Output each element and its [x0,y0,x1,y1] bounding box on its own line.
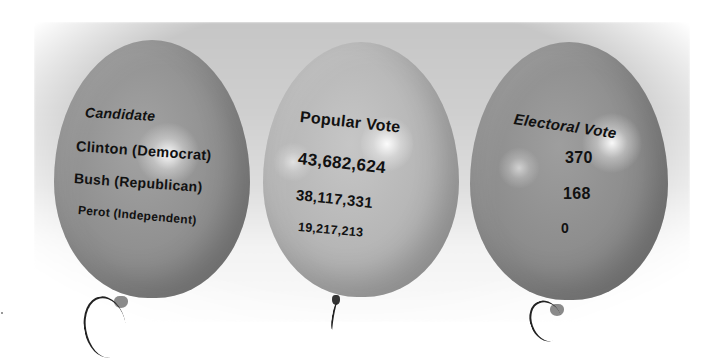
electoral-vote-bush: 168 [563,185,591,203]
balloon-highlight [498,147,540,189]
speck [1,312,3,314]
electoral-vote-perot: 0 [561,220,569,236]
electoral-vote-clinton: 370 [565,149,593,167]
